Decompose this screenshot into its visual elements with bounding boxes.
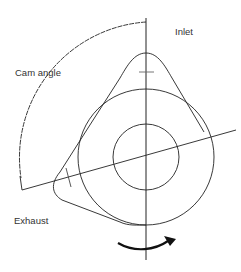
cam-angle-arc [19,22,146,178]
inlet-label: Inlet [175,26,193,37]
cam-profile [53,53,204,225]
cam-angle-label: Cam angle [15,67,61,78]
rotation-arrow [118,241,168,249]
rotation-arrowhead-icon [164,236,176,246]
cam-profile-diagram [0,0,241,272]
cam-angle-arc-end [20,176,22,190]
exhaust-label: Exhaust [14,215,48,226]
